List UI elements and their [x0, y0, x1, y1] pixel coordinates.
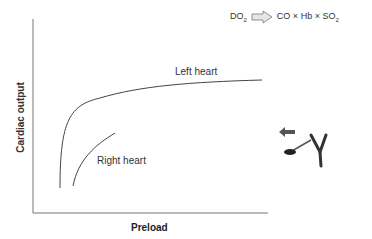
left-heart-label: Left heart — [175, 66, 217, 77]
slingshot-icon — [279, 127, 326, 166]
y-axis-label: Cardiac output — [15, 78, 26, 158]
left-heart-curve — [60, 80, 262, 188]
right-heart-label: Right heart — [97, 155, 146, 166]
chart-svg — [0, 0, 372, 239]
x-axis-label: Preload — [131, 222, 168, 233]
